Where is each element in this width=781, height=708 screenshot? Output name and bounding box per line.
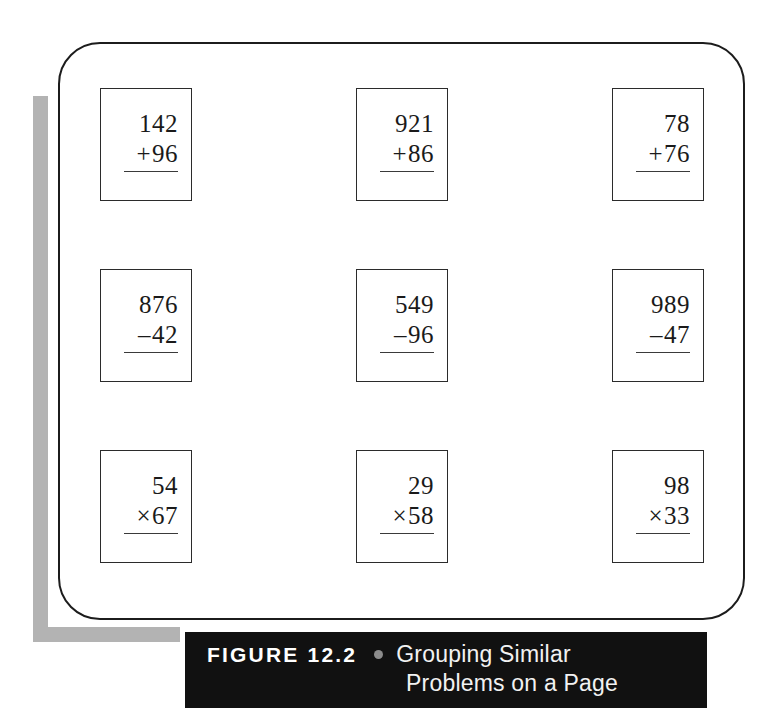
panel-shadow-bottom <box>33 627 180 642</box>
operand-top: 921 <box>395 109 434 139</box>
problem-box: 921 + 86 <box>356 88 448 201</box>
operand-bottom: 58 <box>408 501 434 531</box>
operand-top: 142 <box>139 109 178 139</box>
figure-illustration: 142 + 96 921 + 86 78 + 76 876 – 42 <box>0 0 781 708</box>
operator-sign: – <box>650 320 663 350</box>
caption-text-line-1: Grouping Similar <box>396 641 571 668</box>
problem-box: 98 × 33 <box>612 450 704 563</box>
operand-bottom: 96 <box>152 139 178 169</box>
problem-grid: 142 + 96 921 + 86 78 + 76 876 – 42 <box>100 88 704 568</box>
operand-bottom: 67 <box>152 501 178 531</box>
operand-top: 98 <box>664 471 690 501</box>
operator-sign: – <box>394 320 407 350</box>
problem-box: 78 + 76 <box>612 88 704 201</box>
operand-top: 549 <box>395 290 434 320</box>
operand-top: 989 <box>651 290 690 320</box>
operand-bottom-row: – 96 <box>380 320 434 353</box>
operand-bottom-row: – 47 <box>636 320 690 353</box>
operand-bottom-row: + 76 <box>636 139 690 172</box>
operator-sign: × <box>136 501 151 531</box>
operand-bottom: 96 <box>408 320 434 350</box>
problem-box: 549 – 96 <box>356 269 448 382</box>
operand-bottom: 86 <box>408 139 434 169</box>
operator-sign: × <box>648 501 663 531</box>
operand-bottom-row: + 86 <box>380 139 434 172</box>
panel-shadow-left <box>33 96 48 642</box>
operand-bottom-row: × 58 <box>380 501 434 534</box>
problem-box: 142 + 96 <box>100 88 192 201</box>
operand-bottom-row: + 96 <box>124 139 178 172</box>
operator-sign: + <box>392 139 407 169</box>
problem-box: 989 – 47 <box>612 269 704 382</box>
operator-sign: + <box>648 139 663 169</box>
operand-bottom: 33 <box>664 501 690 531</box>
figure-caption-bar: FIGURE 12.2 Grouping Similar Problems on… <box>185 632 707 708</box>
operand-top: 876 <box>139 290 178 320</box>
problem-box: 876 – 42 <box>100 269 192 382</box>
operator-sign: + <box>136 139 151 169</box>
operand-top: 78 <box>664 109 690 139</box>
operand-bottom: 42 <box>152 320 178 350</box>
caption-first-line: FIGURE 12.2 Grouping Similar <box>207 641 693 668</box>
operator-sign: – <box>138 320 151 350</box>
problem-box: 29 × 58 <box>356 450 448 563</box>
figure-number-label: FIGURE 12.2 <box>207 643 357 667</box>
operand-bottom: 47 <box>664 320 690 350</box>
problem-box: 54 × 67 <box>100 450 192 563</box>
operand-bottom: 76 <box>664 139 690 169</box>
bullet-separator-icon <box>374 650 383 659</box>
operand-bottom-row: × 33 <box>636 501 690 534</box>
operand-top: 29 <box>408 471 434 501</box>
operand-bottom-row: × 67 <box>124 501 178 534</box>
operand-top: 54 <box>152 471 178 501</box>
operator-sign: × <box>392 501 407 531</box>
caption-text-line-2: Problems on a Page <box>207 670 693 697</box>
operand-bottom-row: – 42 <box>124 320 178 353</box>
